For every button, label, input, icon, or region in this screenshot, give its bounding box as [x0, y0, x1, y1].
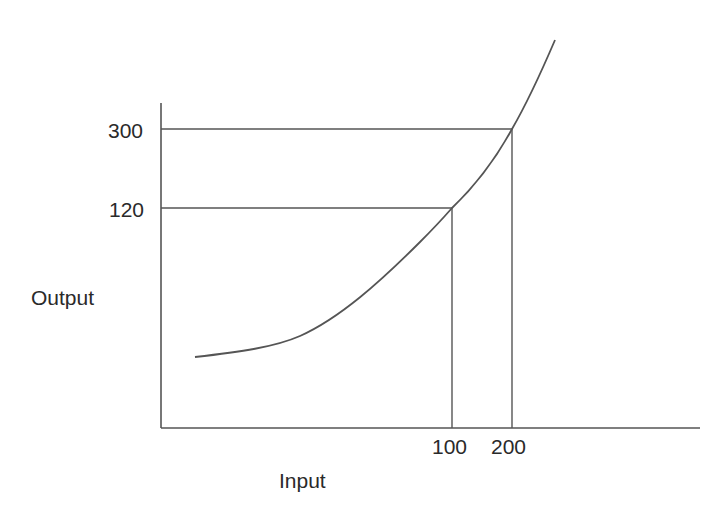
- chart-canvas: [0, 0, 723, 519]
- x-axis-label: Input: [279, 470, 326, 491]
- y-axis-label: Output: [31, 287, 94, 308]
- x-tick-200: 200: [491, 436, 526, 457]
- output-curve: [195, 40, 555, 357]
- x-tick-100: 100: [432, 436, 467, 457]
- y-tick-300: 300: [108, 120, 143, 141]
- y-tick-120: 120: [109, 199, 144, 220]
